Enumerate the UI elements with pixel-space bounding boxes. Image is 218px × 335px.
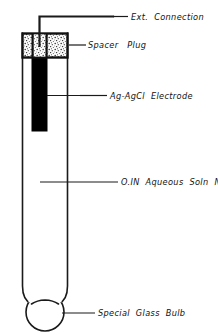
electrode-diagram-figure: Ext. Connection Spacer Plug Ag-AgCl Elec…: [0, 0, 218, 335]
label-ext-connection: Ext. Connection: [131, 12, 204, 22]
diagram-canvas: Ext. Connection Spacer Plug Ag-AgCl Elec…: [0, 0, 218, 335]
label-glass-bulb: Special Glass Bulb: [98, 308, 185, 318]
label-solution: O.IN Aqueous Soln NaCl: [121, 177, 218, 187]
label-spacer-plug: Spacer Plug: [88, 40, 146, 50]
label-electrode: Ag-AgCl Electrode: [109, 91, 193, 101]
